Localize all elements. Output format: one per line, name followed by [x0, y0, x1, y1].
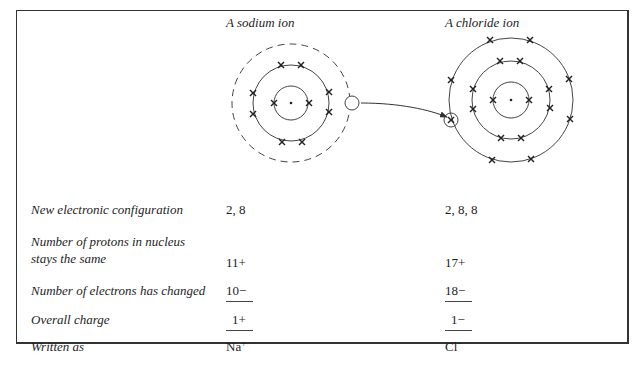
chloride-configuration: 2, 8, 8 [445, 202, 478, 218]
sodium-ion-title: A sodium ion [226, 15, 294, 31]
chloride-charge-superscript: − [457, 338, 462, 348]
transferred-electron-vacancy [345, 96, 359, 110]
sodium-charge-superscript: + [241, 338, 246, 348]
row-label-configuration: New electronic configuration [31, 202, 183, 218]
sodium-ion-diagram [232, 44, 359, 162]
electron-transfer-arrow [361, 103, 447, 117]
sodium-overall-charge: 1+ [232, 312, 246, 328]
chloride-ion-title: A chloride ion [445, 15, 519, 31]
row-label-protons-2: stays the same [31, 251, 106, 267]
row-label-electrons: Number of electrons has changed [31, 283, 205, 299]
chloride-ion-diagram [444, 37, 573, 163]
chloride-electrons: 18− [445, 283, 465, 299]
chloride-ion-formula: Cl− [445, 339, 462, 355]
result-rule [226, 330, 253, 331]
result-rule [445, 330, 472, 331]
chloride-protons: 17+ [445, 255, 465, 271]
nucleus-dot [290, 102, 293, 105]
row-label-protons-1: Number of protons in nucleus [31, 234, 185, 250]
sodium-configuration: 2, 8 [226, 202, 246, 218]
row-label-written-as: Written as [31, 339, 84, 355]
sum-rule [226, 301, 253, 302]
sodium-electrons: 10− [226, 283, 246, 299]
sodium-ion-formula: Na+ [226, 339, 246, 355]
chloride-overall-charge: 1− [451, 312, 465, 328]
chloride-symbol: Cl [445, 339, 457, 354]
nucleus-dot [510, 99, 513, 102]
sum-rule [445, 301, 472, 302]
sodium-symbol: Na [226, 339, 241, 354]
sodium-protons: 11+ [226, 255, 246, 271]
row-label-overall-charge: Overall charge [31, 312, 110, 328]
